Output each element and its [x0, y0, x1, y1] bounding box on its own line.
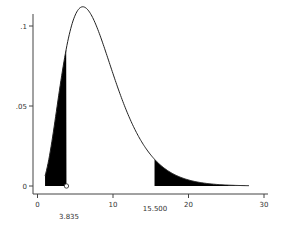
y-tick-label: 0 [23, 183, 27, 191]
x-tick-label: 0 [35, 201, 39, 209]
chi-square-chart: 0.05.1 0102030 3.835 15.500 [0, 0, 281, 232]
x-tick-label: 30 [260, 201, 269, 209]
x-tick-label: 20 [184, 201, 193, 209]
critical-value-marker [64, 184, 68, 188]
density-curve [45, 7, 249, 186]
shaded-tails [45, 49, 249, 186]
y-ticks: 0.05.1 [16, 23, 33, 191]
x-tick-label: 10 [109, 201, 118, 209]
y-tick-label: .05 [16, 103, 27, 111]
upper-tail-region [155, 159, 249, 186]
upper-critical-label: 15.500 [143, 205, 168, 213]
y-tick-label: .1 [20, 23, 27, 31]
lower-critical-label: 3.835 [59, 213, 79, 221]
